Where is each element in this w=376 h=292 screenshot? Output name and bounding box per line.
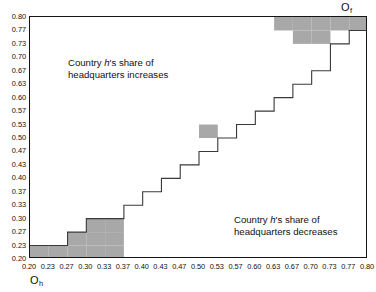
- y-tick-label: 0.73: [12, 38, 26, 47]
- y-tick-label: 0.67: [12, 65, 26, 74]
- shaded-cell: [105, 219, 124, 232]
- shaded-cell: [349, 17, 367, 30]
- x-tick-label: 0.30: [78, 262, 92, 271]
- y-tick-label: 0.23: [12, 240, 26, 249]
- annotation-increases-prefix: Country: [68, 57, 104, 68]
- y-tick-label: 0.50: [12, 133, 26, 142]
- x-tick-label: 0.80: [360, 262, 374, 271]
- shaded-cell: [86, 232, 105, 245]
- x-tick-label: 0.73: [322, 262, 336, 271]
- x-tick-label: 0.37: [116, 262, 130, 271]
- x-tick-label: 0.33: [97, 262, 111, 271]
- x-tick-label: 0.60: [247, 262, 261, 271]
- origin-oh-letter: O: [30, 274, 39, 286]
- origin-oh-subscript: h: [39, 279, 43, 288]
- shaded-cell: [274, 17, 293, 30]
- y-axis-ticks: 0.200.230.270.300.330.370.400.430.470.50…: [0, 0, 26, 292]
- shaded-cell: [199, 125, 218, 138]
- shaded-cell: [105, 232, 124, 245]
- shaded-cell: [68, 232, 87, 245]
- y-tick-label: 0.40: [12, 173, 26, 182]
- x-tick-label: 0.23: [41, 262, 55, 271]
- shaded-cell: [293, 17, 312, 30]
- x-tick-label: 0.53: [210, 262, 224, 271]
- shaded-cell: [312, 30, 331, 43]
- y-tick-label: 0.37: [12, 186, 26, 195]
- staircase-boundary-line: [30, 17, 367, 246]
- y-tick-label: 0.27: [12, 227, 26, 236]
- shaded-cell: [105, 246, 124, 258]
- x-tick-label: 0.77: [341, 262, 355, 271]
- shaded-cell: [30, 246, 49, 258]
- plot-area: Country h's share of headquarters increa…: [29, 16, 367, 258]
- annotation-decreases-suffix: 's share of: [276, 214, 320, 225]
- y-tick-label: 0.33: [12, 200, 26, 209]
- x-tick-label: 0.47: [172, 262, 186, 271]
- x-tick-label: 0.20: [22, 262, 36, 271]
- y-tick-label: 0.70: [12, 52, 26, 61]
- annotation-increases: Country h's share of headquarters increa…: [68, 57, 168, 82]
- figure-container: Of 0.200.230.270.300.330.370.400.430.470…: [0, 0, 376, 292]
- shaded-cell: [293, 30, 312, 43]
- annotation-increases-line2: headquarters increases: [68, 69, 168, 80]
- y-tick-label: 0.60: [12, 92, 26, 101]
- x-tick-label: 0.67: [285, 262, 299, 271]
- origin-label-oh: Oh: [30, 274, 43, 286]
- annotation-decreases-line2: headquarters decreases: [234, 226, 337, 237]
- shaded-cell: [86, 246, 105, 258]
- x-axis-ticks: 0.200.230.270.300.330.370.400.430.470.50…: [0, 262, 376, 274]
- y-tick-label: 0.47: [12, 146, 26, 155]
- x-tick-label: 0.63: [266, 262, 280, 271]
- annotation-decreases-line1: Country h's share of: [234, 214, 320, 225]
- y-tick-label: 0.57: [12, 106, 26, 115]
- y-tick-label: 0.30: [12, 213, 26, 222]
- x-tick-label: 0.40: [135, 262, 149, 271]
- y-tick-label: 0.53: [12, 119, 26, 128]
- shaded-cell: [312, 17, 331, 30]
- y-tick-label: 0.80: [12, 12, 26, 21]
- shaded-cell: [86, 219, 105, 232]
- shaded-cell: [68, 246, 87, 258]
- x-tick-label: 0.57: [228, 262, 242, 271]
- origin-of-letter: O: [341, 1, 350, 13]
- annotation-decreases: Country h's share of headquarters decrea…: [234, 214, 337, 239]
- annotation-decreases-prefix: Country: [234, 214, 270, 225]
- origin-label-of: Of: [341, 1, 352, 13]
- x-tick-label: 0.27: [59, 262, 73, 271]
- y-tick-label: 0.63: [12, 79, 26, 88]
- shaded-cell: [49, 246, 68, 258]
- x-tick-label: 0.43: [153, 262, 167, 271]
- x-tick-label: 0.70: [304, 262, 318, 271]
- x-tick-label: 0.50: [191, 262, 205, 271]
- shaded-cell: [330, 17, 349, 30]
- annotation-increases-suffix: 's share of: [110, 57, 154, 68]
- annotation-increases-line1: Country h's share of: [68, 57, 154, 68]
- origin-of-subscript: f: [350, 6, 352, 15]
- y-tick-label: 0.77: [12, 25, 26, 34]
- y-tick-label: 0.43: [12, 159, 26, 168]
